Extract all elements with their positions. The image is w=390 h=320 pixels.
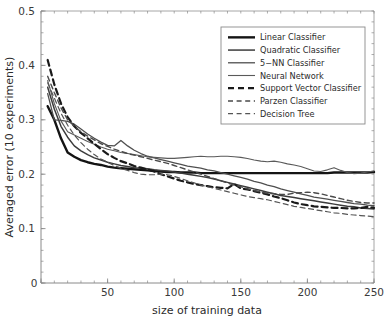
legend-label: Support Vector Classifier <box>260 83 362 93</box>
legend-label: Parzen Classifier <box>260 96 328 106</box>
x-tick-label-origin: 0 <box>31 277 38 289</box>
chart-figure: 501001502002500 0.10.20.30.40.5 Linear C… <box>0 0 390 320</box>
legend-label: Quadratic Classifier <box>260 45 341 55</box>
legend-label: 5−NN Classifier <box>260 58 325 68</box>
chart-legend: Linear ClassifierQuadratic Classifier5−N… <box>221 27 365 124</box>
x-tick-label: 100 <box>164 286 184 298</box>
x-axis-title: size of training data <box>152 304 262 317</box>
legend-label: Linear Classifier <box>260 32 326 42</box>
x-tick-label: 200 <box>297 286 317 298</box>
y-tick-label: 0.2 <box>18 168 35 180</box>
x-tick-label: 250 <box>364 286 384 298</box>
y-axis-title: Averaged error (10 experiments) <box>3 57 16 238</box>
y-tick-label: 0.4 <box>18 59 35 71</box>
x-tick-label: 150 <box>231 286 251 298</box>
legend-label: Neural Network <box>260 71 324 81</box>
legend-label: Decision Tree <box>260 109 315 119</box>
y-tick-label: 0.3 <box>18 113 35 125</box>
line-chart-canvas: 501001502002500 0.10.20.30.40.5 Linear C… <box>0 0 390 320</box>
y-tick-label: 0.1 <box>18 222 35 234</box>
x-tick-label: 50 <box>101 286 114 298</box>
y-tick-label: 0.5 <box>18 5 35 17</box>
